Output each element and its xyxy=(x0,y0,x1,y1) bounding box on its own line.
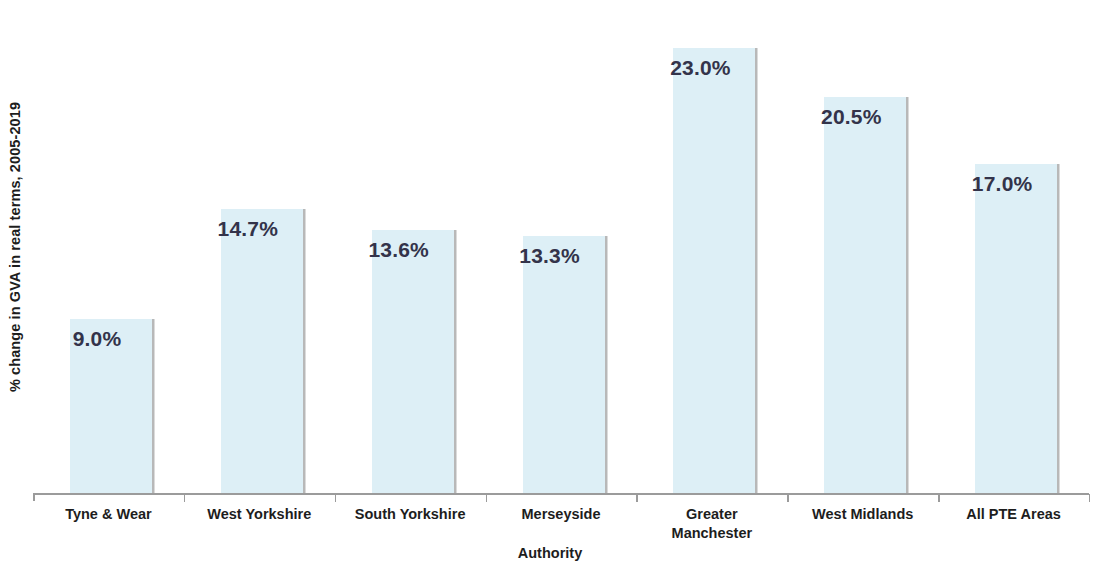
x-axis-tick xyxy=(938,494,939,502)
x-axis-title: Authority xyxy=(0,545,1100,561)
plot-area: 9.0%14.7%13.6%13.3%23.0%20.5%17.0% xyxy=(33,0,1093,494)
bar-value-label: 13.6% xyxy=(344,238,454,262)
x-axis-category-label: West Midlands xyxy=(787,505,938,524)
x-axis-tick xyxy=(335,494,336,502)
bar-chart: % change in GVA in real terms, 2005-2019… xyxy=(0,0,1100,571)
y-axis-title: % change in GVA in real terms, 2005-2019 xyxy=(0,0,30,494)
category-axis-line xyxy=(33,493,1089,495)
y-axis-title-text: % change in GVA in real terms, 2005-2019 xyxy=(7,102,23,392)
bar xyxy=(523,236,605,493)
axis-left-cap xyxy=(33,493,35,501)
x-axis-category-label: South Yorkshire xyxy=(335,505,486,524)
bar-value-label: 17.0% xyxy=(947,172,1057,196)
x-axis-category-label: Greater Manchester xyxy=(636,505,787,543)
bar xyxy=(372,230,454,493)
x-axis-tick xyxy=(184,494,185,502)
bar xyxy=(824,97,906,493)
x-axis-tick xyxy=(636,494,637,502)
bar-value-label: 14.7% xyxy=(193,217,303,241)
x-axis-category-label: Merseyside xyxy=(486,505,637,524)
bar-value-label: 9.0% xyxy=(42,327,152,351)
bar xyxy=(673,48,755,493)
x-axis-category-label: West Yorkshire xyxy=(184,505,335,524)
bar xyxy=(975,164,1057,493)
bar-value-label: 20.5% xyxy=(796,105,906,129)
x-axis-category-label: All PTE Areas xyxy=(938,505,1089,524)
bar xyxy=(221,209,303,493)
bar-value-label: 23.0% xyxy=(645,56,755,80)
x-axis-tick xyxy=(1089,494,1090,502)
x-axis-tick xyxy=(486,494,487,502)
x-axis-tick xyxy=(787,494,788,502)
x-axis-category-label: Tyne & Wear xyxy=(33,505,184,524)
bar-value-label: 13.3% xyxy=(495,244,605,268)
